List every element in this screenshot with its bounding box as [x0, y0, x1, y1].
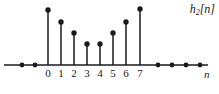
- x-tick-label: 2: [67, 67, 81, 79]
- sample-marker: [184, 63, 189, 68]
- sample-marker: [123, 19, 128, 24]
- sample-marker: [110, 30, 115, 35]
- stem-plot-figure: 0 1 2 3 4 5 6 7 h2[n] n: [0, 0, 219, 94]
- x-tick-label: 5: [106, 67, 120, 79]
- sample-marker: [45, 7, 50, 12]
- sample-marker: [84, 41, 89, 46]
- sample-marker: [137, 6, 142, 11]
- sample-marker: [156, 63, 161, 68]
- sample-marker: [71, 30, 76, 35]
- sample-marker: [198, 63, 203, 68]
- x-tick-label: 0: [41, 67, 55, 79]
- x-tick-label: 6: [119, 67, 133, 79]
- sample-marker: [20, 63, 25, 68]
- series-label-base: h: [190, 2, 196, 16]
- x-tick-label: 7: [133, 67, 147, 79]
- series-label-subscript: 2: [196, 8, 200, 17]
- x-tick-label: 1: [54, 67, 68, 79]
- x-tick-label: 4: [93, 67, 107, 79]
- sample-marker: [97, 41, 102, 46]
- sample-marker: [170, 63, 175, 68]
- series-label-suffix: [n]: [200, 2, 215, 16]
- x-axis-label: n: [204, 68, 210, 80]
- series-label: h2[n]: [190, 2, 215, 17]
- sample-marker: [33, 63, 38, 68]
- x-tick-label: 3: [80, 67, 94, 79]
- sample-marker: [58, 19, 63, 24]
- stem-plot-canvas: [0, 0, 219, 94]
